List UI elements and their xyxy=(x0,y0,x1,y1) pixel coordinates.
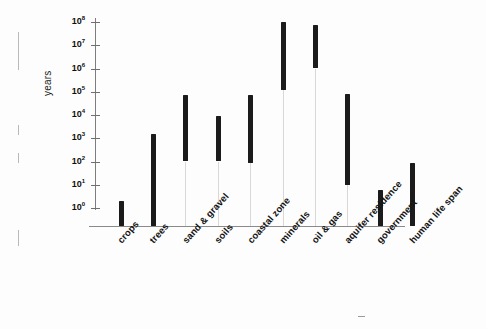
figure-canvas: years 108107106105104103102101100 cropst… xyxy=(0,0,486,329)
range-bar[interactable] xyxy=(183,95,188,161)
plot-area: 108107106105104103102101100 xyxy=(95,18,415,230)
x-axis-category-label: human life span xyxy=(407,183,465,245)
y-axis-tick-label: 106 xyxy=(72,62,85,74)
range-bar[interactable] xyxy=(410,163,415,226)
y-axis-tick: 100 xyxy=(91,208,100,209)
y-axis-line xyxy=(95,18,96,210)
y-axis-tick: 108 xyxy=(91,22,100,23)
y-axis-tick: 102 xyxy=(91,162,100,163)
y-axis-tick: 106 xyxy=(91,69,100,70)
range-bar[interactable] xyxy=(216,116,221,161)
bar-stem xyxy=(250,163,251,226)
range-bar[interactable] xyxy=(313,25,318,68)
y-axis-tick-label: 105 xyxy=(72,85,85,97)
y-axis-tick: 103 xyxy=(91,138,100,139)
scan-artifact-binding-mark xyxy=(18,32,19,70)
bar-stem xyxy=(315,69,316,227)
y-axis-tick: 104 xyxy=(91,115,100,116)
y-axis-tick: 101 xyxy=(91,185,100,186)
range-bar[interactable] xyxy=(345,94,350,185)
scan-artifact-binding-mark xyxy=(18,153,19,163)
bar-stem xyxy=(347,185,348,226)
bar-stem xyxy=(185,162,186,227)
y-axis-tick-label: 103 xyxy=(72,131,85,143)
y-axis-tick-label: 108 xyxy=(72,15,85,27)
y-axis-tick-label: 101 xyxy=(72,178,85,190)
y-axis-tick-label: 100 xyxy=(72,201,85,213)
y-axis-tick-label: 102 xyxy=(72,155,85,167)
y-axis-tick: 105 xyxy=(91,92,100,93)
scan-artifact-binding-mark xyxy=(18,230,19,246)
range-bar[interactable] xyxy=(119,201,124,226)
y-axis-tick-label: 107 xyxy=(72,38,85,50)
scan-artifact-stray-dot xyxy=(358,316,365,317)
y-axis-tick: 107 xyxy=(91,45,100,46)
range-bar[interactable] xyxy=(281,22,286,90)
y-axis-tick-label: 104 xyxy=(72,108,85,120)
range-bar[interactable] xyxy=(248,95,253,162)
scan-artifact-binding-mark xyxy=(18,125,19,135)
range-bar[interactable] xyxy=(151,134,156,226)
y-axis-title: years xyxy=(42,71,53,96)
